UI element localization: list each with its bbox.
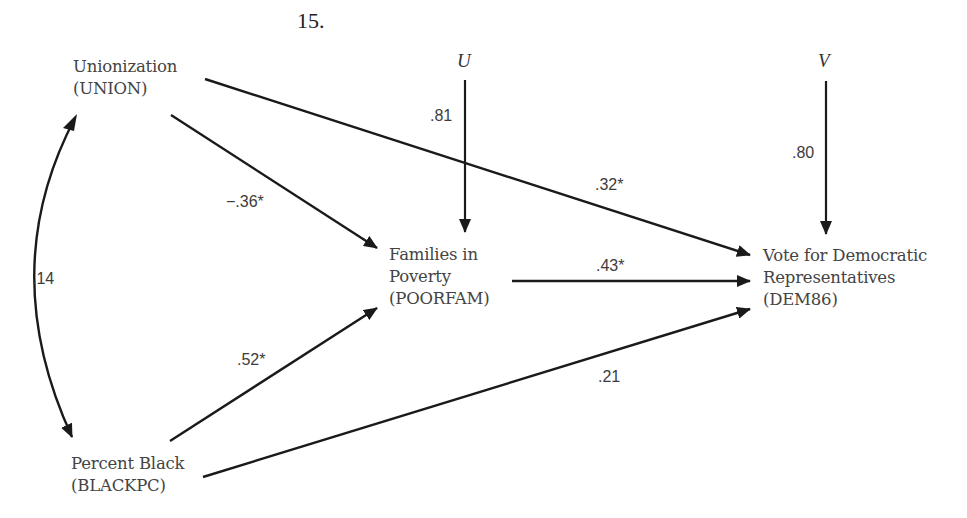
arrow-union-to-dem86 (205, 79, 750, 255)
coef-union-blackpc: .14 (32, 270, 54, 288)
node-dem86-code: (DEM86) (763, 289, 927, 311)
node-poorfam-line2: Poverty (389, 266, 489, 288)
arrowhead-union-end-icon (63, 114, 77, 131)
node-dem86-line2: Representatives (763, 267, 927, 289)
node-union-code: (UNION) (73, 78, 177, 100)
figure-number: 15. (297, 8, 325, 34)
coef-blackpc-poorfam: .52* (237, 351, 265, 369)
error-term-u: U (457, 50, 471, 72)
node-dem86-line1: Vote for Democratic (763, 245, 927, 267)
node-blackpc-code: (BLACKPC) (71, 475, 184, 497)
node-dem86: Vote for Democratic Representatives (DEM… (763, 245, 927, 311)
arrow-union-to-poorfam (171, 115, 377, 248)
arrow-blackpc-to-poorfam (170, 308, 377, 441)
coef-union-dem86: .32* (595, 176, 623, 194)
node-blackpc: Percent Black (BLACKPC) (71, 453, 184, 497)
node-union: Unionization (UNION) (73, 56, 177, 100)
coef-union-poorfam: −.36* (226, 193, 264, 211)
coef-v-dem86: .80 (792, 144, 814, 162)
node-union-name: Unionization (73, 56, 177, 78)
node-poorfam: Families in Poverty (POORFAM) (389, 244, 489, 310)
arrow-blackpc-to-dem86 (203, 309, 750, 477)
coef-poorfam-dem86: .43* (596, 257, 624, 275)
node-poorfam-line1: Families in (389, 244, 489, 266)
coef-blackpc-dem86: .21 (598, 368, 620, 386)
node-blackpc-name: Percent Black (71, 453, 184, 475)
error-term-v: V (818, 50, 830, 72)
coef-u-poorfam: .81 (430, 107, 452, 125)
node-poorfam-code: (POORFAM) (389, 288, 489, 310)
